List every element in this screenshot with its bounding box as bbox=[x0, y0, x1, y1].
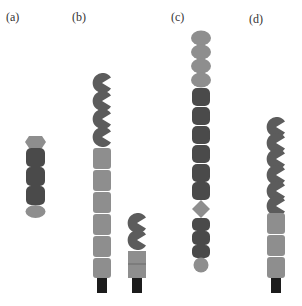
black-anchor bbox=[97, 278, 107, 293]
dark-segment bbox=[26, 148, 45, 167]
structure-c bbox=[191, 31, 211, 273]
dark-segment bbox=[26, 186, 45, 205]
structure-b-short bbox=[128, 213, 146, 293]
diagram-canvas bbox=[0, 0, 302, 306]
circle-cap-icon bbox=[194, 258, 209, 273]
black-anchor bbox=[132, 278, 142, 293]
structure-d bbox=[267, 117, 285, 293]
black-anchor bbox=[271, 278, 281, 293]
dark-segment bbox=[26, 167, 45, 186]
diamond-icon bbox=[192, 200, 210, 218]
structure-a bbox=[25, 136, 46, 218]
octagon-cap-icon bbox=[25, 136, 46, 148]
structure-b-long bbox=[93, 73, 111, 293]
ellipse-cap-icon bbox=[26, 205, 46, 218]
